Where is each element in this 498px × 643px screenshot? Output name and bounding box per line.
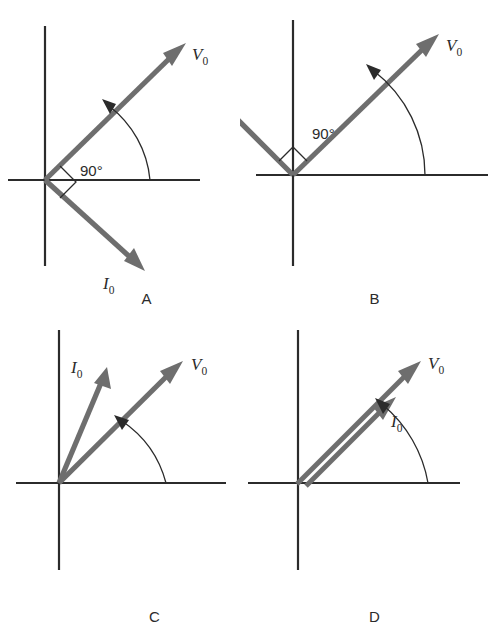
panel-b-diagram: V0 I0 90°: [240, 8, 489, 298]
vector-i0: [45, 180, 145, 271]
label-i0-sub: 0: [397, 422, 403, 434]
label-v0-sub: 0: [201, 365, 207, 377]
phase-arc: [122, 421, 166, 483]
panel-b: V0 I0 90° B: [240, 8, 489, 326]
panel-d-diagram: V0 I0: [240, 320, 489, 610]
label-i0-sub: 0: [77, 368, 83, 380]
phasor-figure: V0 I0 90° A: [0, 0, 498, 643]
panel-grid: V0 I0 90° A: [0, 8, 498, 643]
vector-v0: [293, 34, 439, 175]
label-v0-sub: 0: [438, 364, 444, 376]
panel-d-caption: D: [250, 608, 498, 625]
panel-c-diagram: V0 I0: [8, 320, 257, 610]
label-angle-90: 90°: [80, 162, 103, 179]
phase-arc-arrowhead: [366, 64, 381, 80]
label-v0: V0: [192, 45, 208, 67]
panel-a: V0 I0 90° A: [0, 8, 249, 326]
panel-c: V0 I0 C: [8, 320, 257, 638]
phase-arc: [109, 106, 150, 180]
vector-i0: [240, 67, 293, 175]
label-v0: V0: [428, 354, 444, 376]
panel-a-diagram: V0 I0 90°: [0, 8, 249, 298]
vector-i0: [59, 367, 111, 483]
label-i0: I0: [390, 412, 403, 434]
label-v0-sub: 0: [456, 46, 462, 58]
label-v0-sub: 0: [202, 55, 208, 67]
panel-a-caption: A: [22, 290, 271, 307]
label-v0: V0: [446, 36, 462, 58]
label-angle-90: 90°: [312, 125, 335, 142]
panel-d: V0 I0 D: [240, 320, 489, 638]
phase-arc: [383, 405, 428, 483]
label-v0: V0: [191, 355, 207, 377]
panel-b-caption: B: [250, 290, 498, 307]
label-i0: I0: [70, 358, 83, 380]
